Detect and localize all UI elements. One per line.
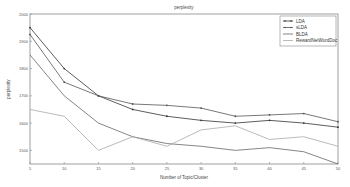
x-tick-label: 5 <box>29 166 32 171</box>
perplexity-line-chart: perplexity 150016001700180019002000 5101… <box>0 0 350 187</box>
x-axis-ticks: 5101520253035404550 <box>29 162 341 171</box>
legend-label: BLDA <box>296 32 308 37</box>
y-tick-label: 1700 <box>19 93 29 98</box>
legend-label: RewardNetWordDoc <box>296 38 338 43</box>
y-tick-label: 2000 <box>19 12 29 17</box>
y-tick-label: 1600 <box>19 121 29 126</box>
y-axis-label: perplexity <box>6 79 11 99</box>
y-tick-label: 1800 <box>19 66 29 71</box>
series-rewardnetworddoc <box>30 109 338 150</box>
x-tick-label: 35 <box>233 166 238 171</box>
legend: LDAsLDABLDARewardNetWordDoc <box>280 16 338 46</box>
series-blda <box>30 55 338 164</box>
x-tick-label: 25 <box>165 166 170 171</box>
x-axis-label: Number of Topic/Cluster <box>160 175 209 180</box>
x-tick-label: 45 <box>302 166 307 171</box>
x-tick-label: 10 <box>62 166 67 171</box>
x-tick-label: 20 <box>130 166 135 171</box>
chart-title: perplexity <box>174 5 194 10</box>
x-tick-label: 15 <box>96 166 101 171</box>
x-tick-label: 30 <box>199 166 204 171</box>
legend-label: sLDA <box>296 25 307 30</box>
y-tick-label: 1900 <box>19 39 29 44</box>
x-tick-label: 50 <box>336 166 341 171</box>
legend-label: LDA <box>296 19 305 24</box>
y-tick-label: 1500 <box>19 148 29 153</box>
x-tick-label: 40 <box>267 166 272 171</box>
series-lines <box>29 27 339 164</box>
